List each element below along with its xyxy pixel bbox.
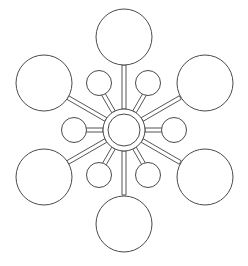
radial-hub-and-spoke-diagram bbox=[0, 0, 248, 266]
spoke-to-large-top bbox=[122, 65, 126, 109]
spoke-to-small-upper-right bbox=[133, 93, 147, 113]
small-node-small-lower-left bbox=[87, 163, 112, 188]
small-node-small-upper-right bbox=[136, 71, 161, 96]
large-node-large-lower-left bbox=[16, 149, 72, 205]
hub-inner-circle bbox=[108, 114, 140, 146]
small-node-small-left bbox=[62, 118, 87, 143]
hub-layer bbox=[103, 109, 145, 151]
large-node-large-upper-left bbox=[16, 55, 72, 111]
large-node-large-bottom bbox=[96, 196, 152, 252]
spoke-to-small-upper-left bbox=[101, 93, 115, 113]
large-node-large-upper-right bbox=[177, 55, 233, 111]
small-node-small-upper-left bbox=[87, 71, 112, 96]
spoke-to-large-bottom bbox=[122, 151, 126, 195]
large-node-large-lower-right bbox=[177, 149, 233, 205]
large-node-large-top bbox=[96, 9, 152, 65]
small-node-small-lower-right bbox=[136, 163, 161, 188]
small-node-small-right bbox=[162, 118, 187, 143]
radial-diagram-canvas bbox=[0, 0, 248, 266]
